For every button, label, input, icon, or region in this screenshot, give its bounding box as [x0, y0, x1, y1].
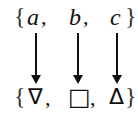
arrow-down-icon [77, 33, 79, 77]
bottom-close-brace: } [125, 84, 137, 108]
top-element-c: c [110, 5, 121, 29]
bottom-separator: , [45, 87, 51, 109]
arrow-down-icon [116, 33, 118, 77]
square-symbol: □ [68, 85, 91, 109]
bottom-separator: , [90, 87, 96, 109]
nabla-symbol: ∇ [28, 86, 43, 108]
top-separator: , [83, 6, 89, 28]
bottom-open-brace: { [14, 84, 26, 108]
top-close-brace: } [125, 4, 137, 28]
delta-symbol: Δ [109, 86, 124, 108]
top-element-a: a [27, 5, 39, 29]
arrow-down-icon [35, 33, 37, 77]
top-separator: , [41, 6, 47, 28]
top-open-brace: { [14, 4, 26, 28]
top-element-b: b [69, 5, 81, 29]
